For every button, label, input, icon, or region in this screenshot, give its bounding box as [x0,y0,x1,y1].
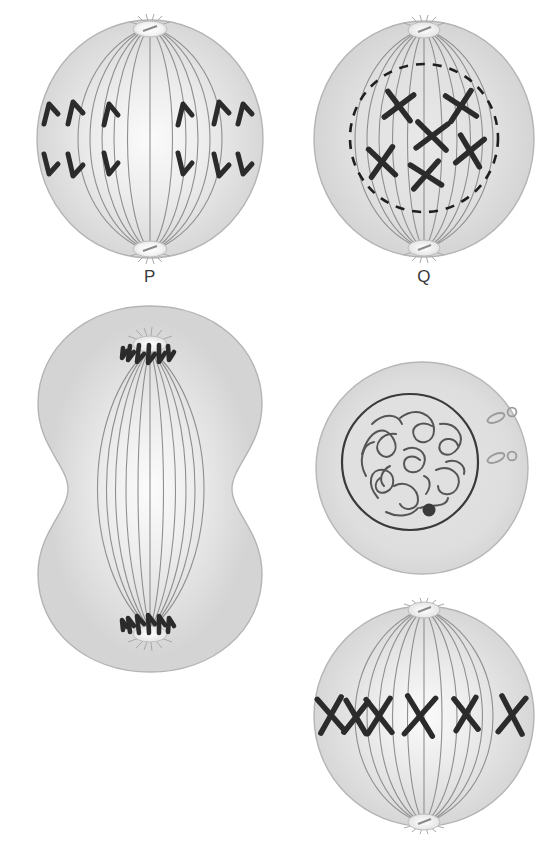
cell-diagram-q: Q [298,12,550,294]
cell-label-p: P [18,268,282,285]
cell-label-q: Q [298,268,550,285]
cell-diagram-p: P [18,12,282,294]
cell-diagram-r: R [18,300,282,678]
cell-diagram-s: S [300,358,550,590]
cell-diagram-t: T [300,598,550,860]
mitosis-figure-board: P [0,0,550,864]
nucleolus [423,504,436,517]
